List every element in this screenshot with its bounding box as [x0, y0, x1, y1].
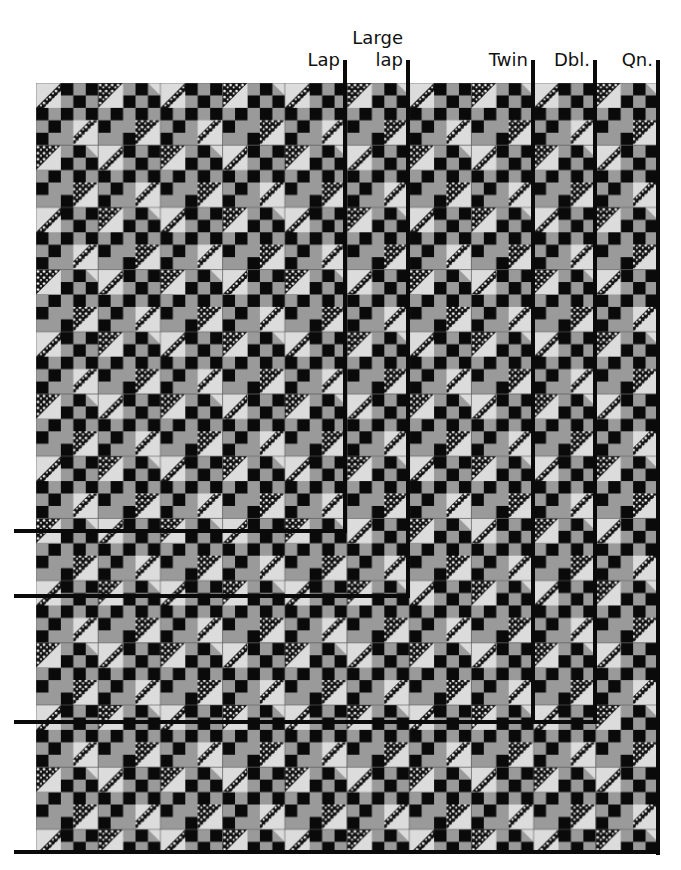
queen-vertical-boundary — [656, 60, 660, 855]
double-vertical-boundary — [593, 60, 597, 724]
size-label-large-lap-line2: lap — [345, 50, 403, 70]
quilt-block-grid — [36, 83, 658, 851]
size-label-lap: Lap — [290, 50, 340, 70]
size-label-twin-text: Twin — [489, 49, 528, 70]
size-label-large-lap: Large lap — [345, 28, 403, 70]
queen-horizontal-boundary — [14, 850, 660, 854]
size-label-large-lap-line1: Large — [345, 28, 403, 48]
twin-vertical-boundary — [531, 60, 535, 724]
large-lap-vertical-boundary — [406, 60, 410, 598]
quilt-pattern-graphic — [36, 83, 658, 851]
size-label-queen-text: Qn. — [622, 49, 653, 70]
size-label-twin: Twin — [470, 50, 528, 70]
large-lap-horizontal-boundary — [14, 594, 410, 598]
twin-double-horizontal-boundary — [14, 720, 597, 724]
size-label-queen: Qn. — [605, 50, 653, 70]
size-label-double: Dbl. — [540, 50, 590, 70]
size-label-double-text: Dbl. — [554, 49, 590, 70]
lap-vertical-boundary — [343, 60, 347, 533]
size-label-lap-text: Lap — [308, 49, 340, 70]
lap-horizontal-boundary — [14, 529, 347, 533]
